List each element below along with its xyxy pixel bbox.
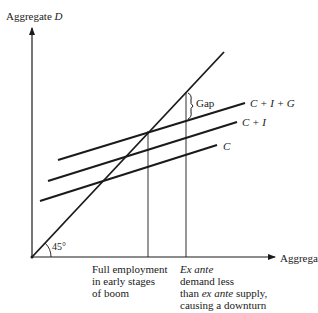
c-label: C (223, 140, 230, 152)
origin-dot (31, 256, 34, 259)
angle-arc (45, 243, 51, 257)
ex-ante-note: Ex ante demand less than ex ante supply,… (180, 263, 267, 311)
full-employment-line-1: Full employment (92, 263, 167, 275)
x-axis-label: Aggregate S (280, 252, 318, 264)
ex-ante-line-3-prefix: than (180, 287, 202, 299)
gap-label: Gap (196, 97, 214, 109)
ex-ante-line-3-italic: ex ante (202, 287, 233, 299)
45-degree-line (32, 52, 224, 257)
y-axis-label-text: Aggregate (6, 10, 55, 22)
ci-line (48, 122, 237, 181)
y-axis-label-var: D (55, 10, 63, 22)
x-axis-label-text: Aggregate (280, 252, 318, 264)
cig-line (58, 103, 245, 160)
ex-ante-line-4: causing a downturn (180, 299, 267, 311)
cig-label: C + I + G (250, 97, 295, 109)
full-employment-line-2: in early stages (92, 275, 167, 287)
ex-ante-line-1: Ex ante (180, 263, 267, 275)
ex-ante-line-3: than ex ante supply, (180, 287, 267, 299)
ex-ante-line-2: demand less (180, 275, 267, 287)
y-axis-label: Aggregate D (6, 10, 63, 22)
ci-label: C + I (242, 116, 266, 128)
gap-brace (188, 93, 193, 119)
full-employment-note: Full employment in early stages of boom (92, 263, 167, 299)
full-employment-line-3: of boom (92, 287, 167, 299)
angle-label: 45° (52, 241, 66, 253)
ex-ante-line-3-suffix: supply, (233, 287, 267, 299)
